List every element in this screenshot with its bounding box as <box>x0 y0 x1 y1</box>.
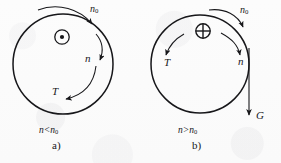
label-G-b: G <box>256 110 264 121</box>
label-n-a: n <box>85 53 91 64</box>
caption-b: n>n0 <box>178 126 197 136</box>
label-n-b: n <box>238 56 244 67</box>
arc-arrow-n-b <box>221 33 240 55</box>
arc-arrow-n-a <box>96 34 102 60</box>
diagram-vector-layer <box>0 0 281 163</box>
panel-letter-a: a) <box>52 140 61 151</box>
caption-a: n<n0 <box>39 126 58 136</box>
label-n0-b: n0 <box>240 5 248 16</box>
label-T-b: T <box>164 57 170 68</box>
arc-arrow-T-a <box>66 66 96 99</box>
figure-canvas: n0 n T n<n0 a) n0 n T G n>n0 b) <box>0 0 281 163</box>
panel-letter-b: b) <box>192 140 201 151</box>
out-of-page-dot-icon <box>55 30 69 44</box>
label-n0-a: n0 <box>90 4 98 15</box>
arc-arrow-n0-b <box>209 10 243 27</box>
disc-circle-a <box>13 14 113 114</box>
arc-arrow-n0-a <box>38 7 92 24</box>
arc-arrow-T-b <box>166 34 184 55</box>
panel-a-graphics <box>13 7 113 114</box>
into-page-cross-icon <box>196 24 210 38</box>
label-T-a: T <box>52 86 58 97</box>
